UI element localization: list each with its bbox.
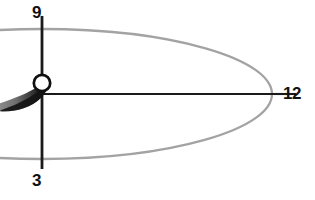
- clock-label-3: 3: [32, 172, 41, 189]
- clock-label-9: 9: [32, 4, 41, 21]
- orbit-diagram-figure: 9 3 12: [0, 0, 315, 200]
- central-body-circle: [34, 75, 50, 91]
- diagram-canvas: [0, 0, 315, 200]
- clock-label-12: 12: [283, 85, 301, 102]
